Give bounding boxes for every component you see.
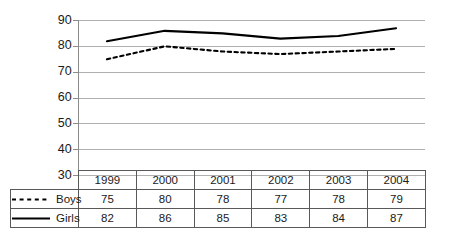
table-row-girls: Girls 82 86 85 83 84 87 xyxy=(11,209,426,228)
cell-boys-2001: 78 xyxy=(194,190,252,209)
series-line-boys xyxy=(107,46,396,59)
dashed-line-icon xyxy=(11,196,51,203)
cell-girls-2000: 86 xyxy=(136,209,194,228)
table-header-2003: 2003 xyxy=(310,171,368,190)
y-axis xyxy=(73,20,79,176)
legend-entry-boys: Boys xyxy=(11,190,79,209)
cell-girls-2003: 84 xyxy=(310,209,368,228)
legend-label-boys: Boys xyxy=(56,193,82,205)
table-corner-cell xyxy=(11,171,79,190)
cell-girls-1999: 82 xyxy=(79,209,137,228)
cell-boys-2003: 78 xyxy=(310,190,368,209)
solid-line-icon xyxy=(11,215,51,222)
cell-boys-2000: 80 xyxy=(136,190,194,209)
series-line-girls xyxy=(107,28,396,41)
cell-girls-2002: 83 xyxy=(252,209,310,228)
cell-boys-1999: 75 xyxy=(79,190,137,209)
data-table: 1999 2000 2001 2002 2003 2004 Boys 75 80 xyxy=(10,170,426,228)
cell-girls-2001: 85 xyxy=(194,209,252,228)
cell-boys-2004: 79 xyxy=(367,190,425,209)
table-row-boys: Boys 75 80 78 77 78 79 xyxy=(11,190,426,209)
cell-girls-2004: 87 xyxy=(367,209,425,228)
table-header-2004: 2004 xyxy=(367,171,425,190)
table-header-2001: 2001 xyxy=(194,171,252,190)
line-chart-with-data-table: 90 80 70 60 50 40 30 xyxy=(0,0,451,245)
table-header-2002: 2002 xyxy=(252,171,310,190)
table-header-row: 1999 2000 2001 2002 2003 2004 xyxy=(11,171,426,190)
table-header-2000: 2000 xyxy=(136,171,194,190)
legend-label-girls: Girls xyxy=(56,212,80,224)
legend-entry-girls: Girls xyxy=(11,209,79,228)
table-header-1999: 1999 xyxy=(79,171,137,190)
cell-boys-2002: 77 xyxy=(252,190,310,209)
gridlines xyxy=(78,21,425,176)
